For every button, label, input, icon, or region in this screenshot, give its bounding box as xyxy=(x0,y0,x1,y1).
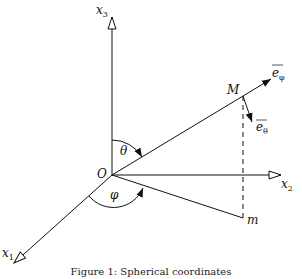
point-m-lower-label: m xyxy=(247,213,258,227)
theta-label: θ xyxy=(120,144,128,158)
om-projection-line xyxy=(112,175,243,218)
e-theta-vector xyxy=(243,96,252,122)
x1-axis xyxy=(14,175,112,263)
e-theta-label: eθ xyxy=(256,120,268,136)
point-m-upper-label: M xyxy=(226,83,240,97)
x1-label: x1 xyxy=(2,246,14,262)
phi-label: φ xyxy=(110,188,119,202)
om-line xyxy=(112,96,243,175)
origin-label: O xyxy=(97,167,107,181)
x3-label: x3 xyxy=(96,3,108,19)
figure-caption: Figure 1: Spherical coordinates xyxy=(0,266,302,277)
e-phi-label: eφ xyxy=(272,66,285,82)
x2-label: x2 xyxy=(281,177,293,193)
e-phi-vector xyxy=(243,79,271,96)
spherical-coordinates-diagram: x3 x2 x1 O eφ M eθ m θ φ xyxy=(0,0,302,279)
